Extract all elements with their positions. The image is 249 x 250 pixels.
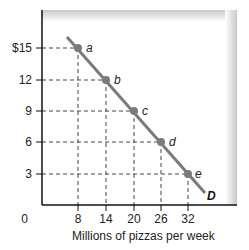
tick-marks: [36, 48, 188, 211]
y-tick-6: 6: [25, 135, 32, 149]
x-tick-8: 8: [75, 212, 82, 226]
point-label-e: e: [195, 167, 202, 181]
origin-label: 0: [21, 212, 28, 226]
point-label-c: c: [142, 104, 148, 118]
guide-lines: [42, 48, 188, 205]
point-b: [102, 76, 110, 84]
y-tick-9: 9: [25, 104, 32, 118]
point-a: [74, 44, 82, 52]
frame-shade-top: [42, 10, 237, 22]
x-tick-26: 26: [154, 212, 168, 226]
curve-label-d: D: [207, 189, 216, 203]
point-label-a: a: [86, 41, 93, 55]
x-axis-label: Millions of pizzas per week: [72, 229, 215, 243]
point-e: [184, 170, 192, 178]
demand-chart: a b c d e D $15 12 9 6 3 0 8 14 20 26 32: [0, 0, 249, 250]
x-tick-32: 32: [181, 212, 195, 226]
point-d: [157, 138, 165, 146]
y-tick-12: 12: [19, 73, 33, 87]
point-label-d: d: [169, 135, 176, 149]
y-tick-3: 3: [25, 167, 32, 181]
point-c: [130, 107, 138, 115]
frame-shade-right: [225, 10, 237, 205]
x-tick-20: 20: [127, 212, 141, 226]
x-tick-14: 14: [99, 212, 113, 226]
y-tick-15: $15: [12, 41, 32, 55]
point-label-b: b: [114, 73, 121, 87]
demand-curve: [67, 37, 205, 193]
